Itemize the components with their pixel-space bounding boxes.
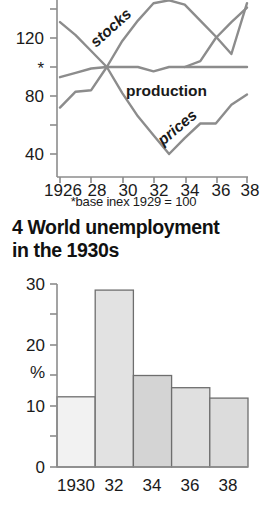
bar-chart-xtick-32: 32	[105, 476, 124, 495]
bar-chart-ytick-0: 0	[36, 458, 45, 477]
bar-chart-ytick-10: 10	[26, 397, 45, 416]
bar-chart: 30 20 % 10 0 1930 32 34 36 38	[0, 268, 267, 516]
chart-heading-line-1: 4 World unemployment	[12, 216, 262, 239]
chart-heading: 4 World unemployment in the 1930s	[12, 216, 262, 261]
bar-group	[57, 290, 248, 467]
line-chart-ytick-base-asterisk: *	[37, 59, 44, 78]
bar-chart-xtick-1930: 1930	[57, 476, 95, 495]
bar-chart-xtick-38: 38	[219, 476, 238, 495]
bar-chart-canvas: 30 20 % 10 0 1930 32 34 36 38	[0, 268, 267, 516]
bar-36	[172, 388, 210, 467]
bar-chart-y-ticks	[50, 284, 57, 467]
line-chart: 120 * 80 40 1926 28 30 32 34 36 38	[0, 0, 267, 216]
line-label-stocks: stocks	[87, 4, 135, 50]
bar-34	[133, 376, 171, 468]
chart-heading-line-2: in the 1930s	[12, 239, 262, 262]
line-chart-ytick-80: 80	[25, 87, 44, 106]
line-chart-footnote: *base inex 1929 = 100	[0, 194, 267, 209]
bar-chart-ytick-20: 20	[26, 336, 45, 355]
line-chart-y-ticks	[50, 9, 57, 154]
bar-38	[210, 398, 248, 467]
bar-chart-ytick-30: 30	[26, 275, 45, 294]
bar-chart-xtick-34: 34	[143, 476, 162, 495]
line-chart-canvas: 120 * 80 40 1926 28 30 32 34 36 38	[0, 0, 267, 196]
line-label-prices: prices	[153, 106, 200, 149]
bar-chart-ylabel-percent: %	[30, 363, 45, 382]
line-chart-ytick-40: 40	[25, 145, 44, 164]
bar-32	[95, 290, 133, 467]
line-label-production: production	[126, 82, 207, 99]
bar-chart-xtick-36: 36	[181, 476, 200, 495]
bar-1930	[57, 397, 95, 467]
line-series-production	[60, 67, 247, 77]
line-chart-ytick-120: 120	[16, 29, 44, 48]
chart-page: 120 * 80 40 1926 28 30 32 34 36 38	[0, 0, 267, 516]
